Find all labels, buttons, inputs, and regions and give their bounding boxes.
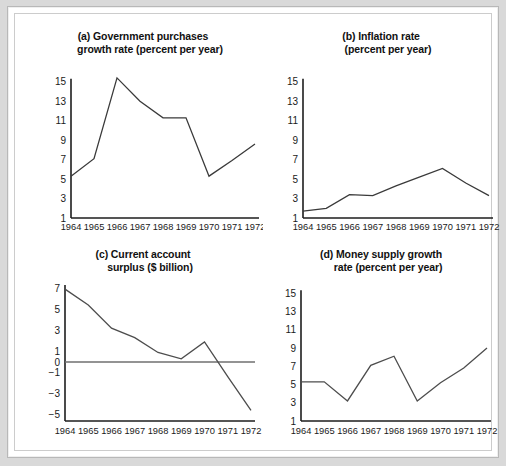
x-tick-label: 1968 (148, 426, 169, 436)
y-tick-label: 7 (290, 361, 296, 372)
x-tick-label: 1970 (430, 426, 451, 436)
y-tick-label: 3 (290, 397, 296, 408)
panel-c-chart: 75310−1−3−519641965196619671968196919701… (23, 236, 263, 454)
x-tick-label: 1966 (107, 222, 128, 232)
panel-a-chart: 1513119753119641965196619671968196919701… (23, 18, 263, 240)
x-tick-label: 1968 (386, 222, 407, 232)
y-tick-label: 15 (55, 76, 67, 87)
panel-b-inflation-rate: (b) Inflation rate (percent per year) 15… (261, 18, 501, 240)
panel-b-chart: 1513119753119641965196619671968196919701… (261, 18, 501, 240)
x-tick-label: 1969 (407, 426, 428, 436)
data-series-line (303, 168, 489, 211)
y-tick-label: −1 (49, 367, 61, 378)
figure-inner-border: (a) Government purchases growth rate (pe… (14, 13, 492, 451)
data-series-line (65, 289, 251, 410)
y-tick-label: 5 (60, 174, 66, 185)
x-tick-label: 1969 (409, 222, 430, 232)
y-tick-label: 3 (292, 193, 298, 204)
y-tick-label: 13 (285, 306, 297, 317)
data-series-line (71, 78, 255, 176)
x-tick-label: 1966 (339, 222, 360, 232)
y-tick-label: 9 (290, 343, 296, 354)
x-tick-label: 1964 (293, 222, 314, 232)
y-tick-label: 3 (54, 325, 60, 336)
y-tick-label: 7 (292, 154, 298, 165)
x-tick-label: 1971 (217, 426, 238, 436)
y-tick-label: 15 (285, 288, 297, 299)
x-tick-label: 1969 (176, 222, 197, 232)
y-tick-label: 11 (288, 115, 299, 126)
y-tick-label: 9 (60, 135, 66, 146)
y-tick-label: 11 (56, 115, 67, 126)
panel-d-money-supply: (d) Money supply growth rate (percent pe… (261, 236, 501, 454)
y-tick-label: 3 (60, 193, 66, 204)
x-tick-label: 1967 (360, 426, 381, 436)
data-series-line (301, 348, 487, 401)
panel-d-chart: 1513119753119641965196619671968196919701… (261, 236, 501, 454)
panel-c-plot-area: 75310−1−3−519641965196619671968196919701… (23, 236, 263, 454)
x-tick-label: 1967 (124, 426, 145, 436)
y-tick-label: 5 (290, 379, 296, 390)
x-tick-label: 1970 (194, 426, 215, 436)
x-tick-label: 1967 (130, 222, 151, 232)
x-tick-label: 1966 (337, 426, 358, 436)
y-tick-label: 5 (292, 174, 298, 185)
x-tick-label: 1972 (477, 426, 498, 436)
y-tick-label: 7 (54, 283, 60, 294)
figure-frame: (a) Government purchases growth rate (pe… (7, 6, 499, 458)
panel-a-plot-area: 1513119753119641965196619671968196919701… (23, 18, 263, 240)
x-tick-label: 1971 (453, 426, 474, 436)
x-tick-label: 1965 (84, 222, 105, 232)
y-tick-label: 1 (54, 346, 60, 357)
x-tick-label: 1964 (55, 426, 76, 436)
x-tick-label: 1964 (61, 222, 82, 232)
y-tick-label: 0 (54, 357, 60, 368)
panel-b-plot-area: 1513119753119641965196619671968196919701… (261, 18, 501, 240)
panel-c-current-account: (c) Current account surplus ($ billion) … (23, 236, 263, 454)
y-tick-label: 11 (286, 324, 297, 335)
panel-d-plot-area: 1513119753119641965196619671968196919701… (261, 236, 501, 454)
x-tick-label: 1972 (241, 426, 262, 436)
x-tick-label: 1967 (362, 222, 383, 232)
x-tick-label: 1965 (78, 426, 99, 436)
y-tick-label: −5 (49, 409, 61, 420)
x-tick-label: 1968 (153, 222, 174, 232)
panel-a-government-purchases: (a) Government purchases growth rate (pe… (23, 18, 263, 240)
x-tick-label: 1970 (199, 222, 220, 232)
x-tick-label: 1970 (432, 222, 453, 232)
y-tick-label: 7 (60, 154, 66, 165)
y-tick-label: 5 (54, 304, 60, 315)
y-tick-label: 9 (292, 135, 298, 146)
x-tick-label: 1971 (455, 222, 476, 232)
x-tick-label: 1965 (314, 426, 335, 436)
x-tick-label: 1969 (171, 426, 192, 436)
x-tick-label: 1968 (384, 426, 405, 436)
y-tick-label: 13 (287, 96, 299, 107)
x-tick-label: 1972 (479, 222, 500, 232)
y-tick-label: 15 (287, 76, 299, 87)
y-tick-label: −3 (49, 388, 61, 399)
x-tick-label: 1966 (101, 426, 122, 436)
x-tick-label: 1965 (316, 222, 337, 232)
y-tick-label: 13 (55, 96, 67, 107)
y-tick-label: 1 (290, 416, 296, 427)
x-tick-label: 1964 (291, 426, 312, 436)
x-tick-label: 1971 (222, 222, 243, 232)
